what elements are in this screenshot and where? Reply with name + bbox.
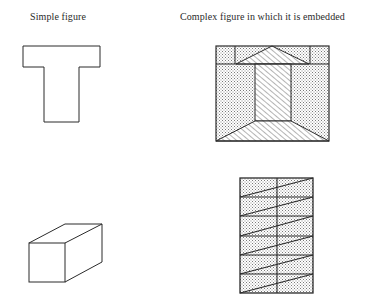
t-shape-icon (23, 46, 100, 122)
box-shape-icon (29, 224, 102, 282)
embedded-t-figure-icon (216, 46, 329, 141)
embedded-box-figure-icon (240, 178, 313, 293)
figure-canvas (0, 0, 390, 297)
